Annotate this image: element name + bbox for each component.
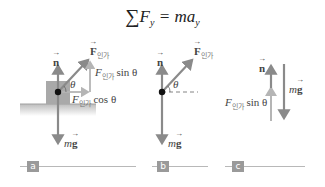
center-point — [55, 89, 61, 95]
label-weight-b: mg — [168, 137, 181, 149]
panel-tag-c: c — [232, 161, 244, 172]
label-angle-b: θ — [173, 78, 178, 90]
label-weight-c: mg — [289, 83, 302, 95]
label-vertical-component-c: F인가 sin θ — [225, 96, 267, 111]
label-normal-b: n — [157, 56, 163, 68]
label-applied-force-a: F인가 — [90, 45, 109, 60]
label-horizontal-component-a: F인가 cos θ — [72, 93, 116, 108]
label-weight-a: mg — [64, 137, 77, 149]
label-normal-a: n — [53, 56, 59, 68]
panel-tag-a: a — [27, 161, 39, 172]
label-angle-a: θ — [70, 78, 75, 90]
label-normal-c: n — [259, 62, 265, 74]
free-body-diagrams — [0, 0, 325, 187]
label-vertical-component-a: F인가 sin θ — [95, 66, 137, 81]
panel-tag-b: b — [157, 161, 169, 172]
label-applied-force-b: F인가 — [194, 45, 213, 60]
angle-arc — [168, 86, 170, 92]
center-point — [159, 89, 165, 95]
panel-c-diagram — [271, 64, 284, 121]
